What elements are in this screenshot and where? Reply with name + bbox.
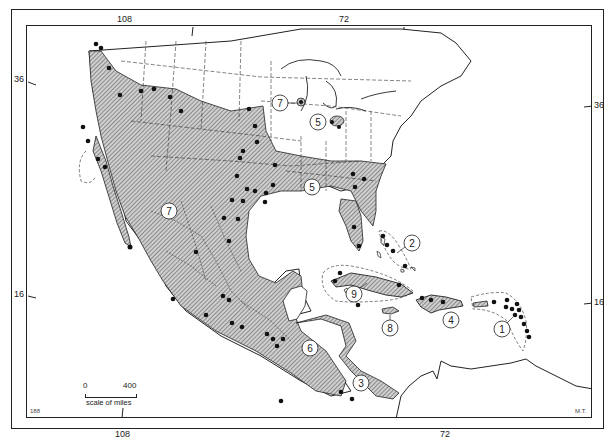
svg-text:6: 6 bbox=[307, 343, 313, 354]
svg-text:3: 3 bbox=[358, 378, 364, 389]
map-canvas: 1 2 3 4 5 5 6 7 7 8 9 bbox=[27, 26, 592, 418]
svg-text:7: 7 bbox=[166, 206, 172, 217]
scale-start-label: 0 bbox=[83, 381, 87, 390]
corner-mark-bottom-left: 188 bbox=[30, 408, 40, 414]
marker-5-ohio: 5 bbox=[310, 114, 326, 130]
range-outline-california bbox=[79, 151, 96, 183]
marker-7-mexico: 7 bbox=[161, 203, 177, 219]
latitude-label-16-right: 16 bbox=[594, 297, 604, 307]
latitude-label-36-right: 36 bbox=[594, 100, 604, 110]
land-south-america bbox=[396, 359, 592, 418]
marker-4: 4 bbox=[443, 312, 459, 328]
marker-1: 1 bbox=[494, 317, 513, 337]
svg-text:4: 4 bbox=[448, 315, 454, 326]
svg-text:5: 5 bbox=[309, 182, 315, 193]
svg-text:2: 2 bbox=[409, 238, 415, 249]
longitude-label-72-bottom: 72 bbox=[440, 429, 450, 439]
longitude-label-108-bottom: 108 bbox=[115, 429, 130, 439]
land-puerto-rico bbox=[473, 301, 488, 307]
longitude-label-108-top: 108 bbox=[117, 14, 132, 24]
marker-8: 8 bbox=[382, 315, 398, 336]
marker-2: 2 bbox=[397, 235, 420, 253]
longitude-label-72-top: 72 bbox=[339, 14, 349, 24]
svg-text:9: 9 bbox=[351, 289, 357, 300]
marker-3: 3 bbox=[353, 375, 369, 391]
scale-end-label: 400 bbox=[123, 381, 136, 390]
scale-caption: scale of miles bbox=[86, 398, 131, 407]
svg-text:7: 7 bbox=[277, 98, 283, 109]
latitude-label-36-left: 36 bbox=[14, 74, 24, 84]
map-frame: 1 2 3 4 5 5 6 7 7 8 9 0 400 scale of mil… bbox=[26, 25, 592, 418]
corner-mark-bottom-right: M.T. bbox=[575, 408, 586, 414]
marker-6: 6 bbox=[302, 340, 318, 356]
svg-text:1: 1 bbox=[499, 324, 505, 335]
svg-text:8: 8 bbox=[387, 323, 393, 334]
marker-5-southeast: 5 bbox=[304, 179, 320, 195]
latitude-label-16-left: 16 bbox=[14, 289, 24, 299]
svg-text:5: 5 bbox=[315, 117, 321, 128]
land-jamaica bbox=[382, 307, 399, 314]
